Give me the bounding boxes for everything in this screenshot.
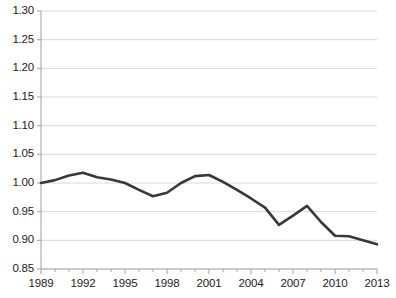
x-tick-label: 1989 <box>21 277 61 289</box>
y-tick-label: 1.05 <box>0 147 34 159</box>
y-tick-label: 1.25 <box>0 33 34 45</box>
line-chart: 1.301.251.201.151.101.051.000.950.900.85… <box>0 0 396 298</box>
x-axis-ticks <box>41 269 377 274</box>
y-tick-label: 1.10 <box>0 119 34 131</box>
y-tick-label: 1.20 <box>0 61 34 73</box>
y-tick-label: 1.15 <box>0 90 34 102</box>
y-tick-label: 1.00 <box>0 176 34 188</box>
x-tick-label: 2010 <box>315 277 355 289</box>
plot-area <box>0 0 396 298</box>
x-tick-label: 2001 <box>189 277 229 289</box>
gridlines <box>41 11 377 269</box>
y-axis-ticks <box>37 11 41 269</box>
y-tick-label: 0.95 <box>0 205 34 217</box>
x-tick-label: 2004 <box>231 277 271 289</box>
x-tick-label: 1998 <box>147 277 187 289</box>
y-tick-label: 0.90 <box>0 233 34 245</box>
x-tick-label: 2013 <box>357 277 396 289</box>
x-tick-label: 1995 <box>105 277 145 289</box>
x-tick-label: 1992 <box>63 277 103 289</box>
y-tick-label: 0.85 <box>0 262 34 274</box>
y-tick-label: 1.30 <box>0 4 34 16</box>
x-tick-label: 2007 <box>273 277 313 289</box>
